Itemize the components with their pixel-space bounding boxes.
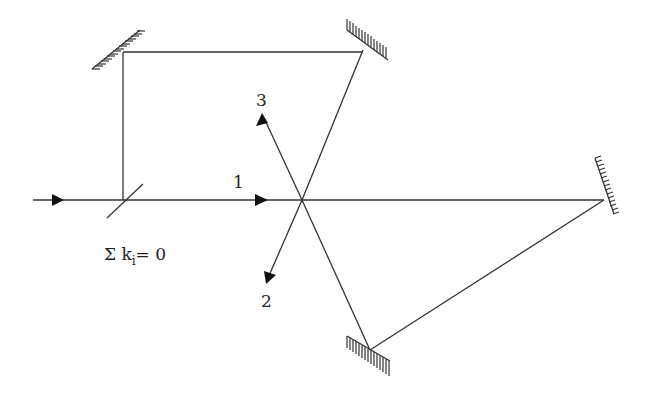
diag-beam-bottom bbox=[302, 200, 370, 350]
input-arrow-icon bbox=[52, 194, 64, 206]
diag-beam-top bbox=[302, 50, 363, 200]
label-beam1: 1 bbox=[233, 172, 244, 192]
mirror-top-left bbox=[92, 30, 145, 69]
optical-diagram: 3 1 2 Σ ki= 0 bbox=[0, 0, 648, 402]
beam3-line bbox=[265, 120, 302, 200]
return-beam bbox=[370, 200, 604, 350]
mirror-top-right bbox=[347, 19, 388, 60]
mirror-right bbox=[595, 156, 619, 214]
label-beam2: 2 bbox=[261, 291, 272, 311]
beam1-arrow-icon bbox=[255, 194, 268, 206]
sum-label: Σ ki= 0 bbox=[104, 244, 166, 268]
beam-splitter bbox=[107, 184, 143, 218]
label-beam3: 3 bbox=[256, 90, 267, 110]
beam2-line bbox=[268, 200, 302, 278]
